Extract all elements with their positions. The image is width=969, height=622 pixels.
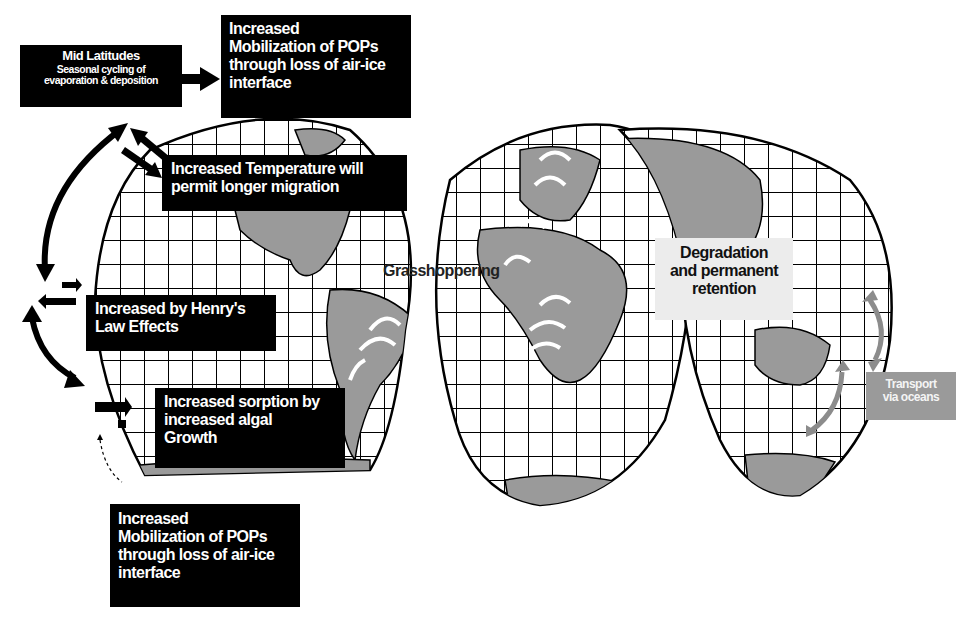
mid-latitudes-line2: evaporation & deposition — [24, 75, 178, 87]
right-arrow-icon — [180, 67, 220, 91]
henrys-law-box: Increased by Henry's Law Effects — [86, 295, 276, 351]
temperature-line2: permit longer migration — [171, 178, 398, 196]
mobilization-top-box: Increased Mobilization of POPs through l… — [221, 15, 411, 118]
temperature-line1: Increased Temperature will — [171, 160, 398, 178]
sorption-line3: Growth — [164, 429, 336, 447]
degradation-box: Degradation and permanent retention — [655, 238, 793, 320]
degradation-line2: and permanent — [659, 262, 789, 280]
sorption-line1: Increased sorption by — [164, 393, 336, 411]
mobilization-bottom-box: Increased Mobilization of POPs through l… — [110, 504, 300, 607]
curved-double-arrow-icon — [22, 305, 85, 388]
mobilization-bottom-line1: Increased — [118, 510, 292, 528]
grasshoppering-label: Grasshoppering — [383, 262, 500, 280]
degradation-line3: retention — [659, 280, 789, 298]
sorption-line2: increased algal — [164, 411, 336, 429]
mobilization-top-line1: Increased — [229, 20, 403, 38]
mobilization-bottom-line2: Mobilization of POPs — [118, 528, 292, 546]
transport-box: Transport via oceans — [866, 372, 956, 420]
transport-line2: via oceans — [868, 391, 954, 404]
mobilization-top-line3: through loss of air-ice — [229, 56, 403, 74]
double-arrow-icon — [38, 278, 82, 309]
dashed-arrow-icon — [97, 434, 122, 482]
mobilization-top-line4: interface — [229, 74, 403, 92]
degradation-line1: Degradation — [659, 244, 789, 262]
henrys-law-line2: Law Effects — [95, 318, 267, 336]
mid-latitudes-box: Mid Latitudes Seasonal cycling of evapor… — [20, 45, 182, 107]
temperature-box: Increased Temperature will permit longer… — [162, 155, 407, 211]
mobilization-top-line2: Mobilization of POPs — [229, 38, 403, 56]
mobilization-bottom-line4: interface — [118, 564, 292, 582]
henrys-law-line1: Increased by Henry's — [95, 300, 267, 318]
transport-line1: Transport — [868, 378, 954, 391]
mid-latitudes-title: Mid Latitudes — [24, 49, 178, 64]
sorption-box: Increased sorption by increased algal Gr… — [155, 388, 345, 468]
mobilization-bottom-line3: through loss of air-ice — [118, 546, 292, 564]
